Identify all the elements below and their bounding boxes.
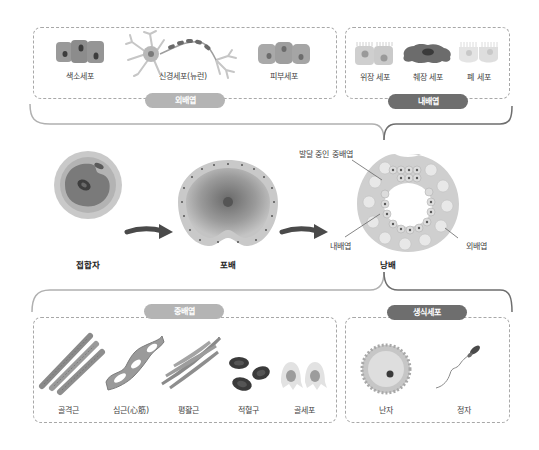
bone-cell-label: 골세포 [284, 404, 324, 415]
skeletal-muscle-icon [38, 330, 104, 392]
bone-cell-icon [279, 360, 329, 392]
skeletal-muscle-label: 골격근 [48, 404, 88, 415]
egg-cell-icon [358, 342, 414, 396]
cardiac-muscle-icon [100, 330, 166, 392]
sperm-cell-icon [434, 344, 484, 390]
red-blood-cell-icon [228, 356, 272, 392]
cardiac-muscle-label: 심근(心筋) [106, 404, 156, 415]
mesoderm-badge: 중배엽 [144, 304, 224, 319]
egg-cell-label: 난자 [366, 404, 406, 415]
germ-cells-badge: 생식세포 [387, 305, 467, 320]
sperm-cell-label: 정자 [444, 404, 484, 415]
smooth-muscle-icon [160, 336, 222, 388]
red-blood-cell-label: 적혈구 [228, 404, 268, 415]
smooth-muscle-label: 평활근 [168, 404, 208, 415]
